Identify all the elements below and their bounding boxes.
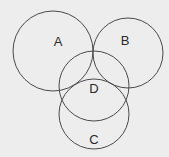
venn-diagram: A B D C <box>0 0 169 157</box>
label-b: B <box>121 33 130 48</box>
label-a: A <box>54 34 63 49</box>
label-c: C <box>89 132 98 147</box>
label-d: D <box>89 81 98 96</box>
circle-a <box>13 11 93 91</box>
